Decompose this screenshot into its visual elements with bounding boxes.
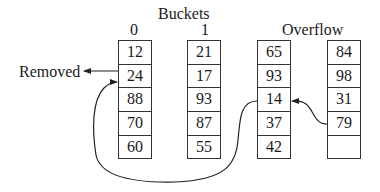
overflow-link-arrow	[292, 101, 327, 124]
relink-arrow	[94, 82, 257, 182]
arrows-layer	[0, 0, 380, 192]
